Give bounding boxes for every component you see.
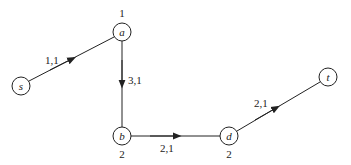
edge-d-t: 2,1 bbox=[237, 82, 320, 131]
edge-label-s-a: 1,1 bbox=[45, 54, 59, 66]
graph-diagram: 1,1 3,1 2,1 2,1 s a 1 b 2 d 2 t bbox=[0, 0, 351, 165]
edge-label-d-t: 2,1 bbox=[254, 97, 268, 109]
edge-label-a-b: 3,1 bbox=[128, 74, 142, 86]
node-value-b: 2 bbox=[119, 148, 125, 160]
edge-label-b-d: 2,1 bbox=[160, 142, 174, 154]
node-label-a: a bbox=[119, 26, 125, 38]
node-value-d: 2 bbox=[226, 148, 232, 160]
node-label-d: d bbox=[226, 130, 232, 142]
node-t: t bbox=[319, 68, 337, 86]
edge-b-d: 2,1 bbox=[131, 136, 220, 154]
edge-s-a: 1,1 bbox=[29, 37, 114, 81]
node-b: b 2 bbox=[113, 127, 131, 160]
node-d: d 2 bbox=[220, 127, 238, 160]
node-a: a 1 bbox=[113, 7, 131, 41]
node-label-b: b bbox=[119, 130, 125, 142]
edge-a-b: 3,1 bbox=[122, 41, 142, 127]
node-value-a: 1 bbox=[119, 7, 125, 19]
node-s: s bbox=[12, 77, 30, 95]
node-label-s: s bbox=[19, 80, 23, 92]
